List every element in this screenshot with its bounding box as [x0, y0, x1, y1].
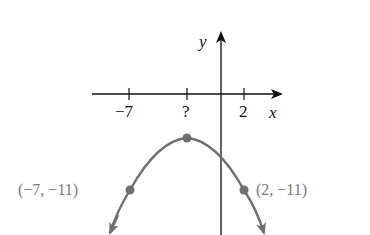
- right-point: [240, 186, 249, 195]
- parabola-curve: [110, 138, 264, 233]
- tick-label-neg7: −7: [115, 103, 133, 120]
- vertex-point: [183, 134, 192, 143]
- x-axis-label: x: [269, 104, 277, 121]
- parabola-left-arrow: [110, 215, 118, 233]
- left-point: [126, 186, 135, 195]
- tick-label-2: 2: [239, 103, 248, 120]
- right-point-label: (2, −11): [256, 182, 307, 198]
- tick-label-vertex: ?: [182, 103, 190, 120]
- y-axis-label: y: [199, 33, 207, 50]
- left-point-label: (−7, −11): [18, 182, 78, 198]
